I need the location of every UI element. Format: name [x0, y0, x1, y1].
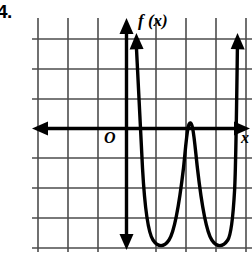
graph-figure: 4.	[0, 0, 252, 255]
curve-left-branch-arrowhead	[130, 33, 144, 50]
curve-right-branch-arrowhead	[231, 33, 245, 50]
coordinate-graph	[0, 0, 252, 255]
function-label: f (x)	[138, 12, 168, 29]
origin-label: O	[104, 130, 116, 146]
function-curve	[130, 33, 245, 246]
y-axis	[120, 18, 134, 250]
x-axis-left-arrowhead	[32, 122, 48, 136]
y-axis-up-arrowhead	[120, 18, 134, 34]
x-axis-label: x	[241, 130, 249, 146]
